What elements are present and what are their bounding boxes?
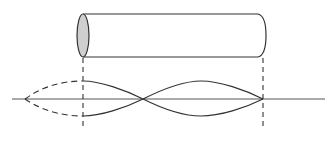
wave-lower-lobe-2 (143, 99, 263, 116)
end-correction-lower (25, 99, 83, 116)
tube (77, 14, 266, 57)
wave-upper-lobe-2 (143, 81, 263, 99)
wave-lower-lobe-1 (83, 99, 143, 116)
end-correction-upper (25, 81, 83, 99)
diagram-canvas: Cylindrical tube (resonator) above a sta… (0, 0, 335, 141)
tube-closed-end-cap (258, 14, 266, 57)
wave-upper-lobe-1 (83, 81, 143, 99)
standing-wave-diagram (0, 0, 335, 141)
tube-open-end-ellipse (77, 14, 89, 57)
